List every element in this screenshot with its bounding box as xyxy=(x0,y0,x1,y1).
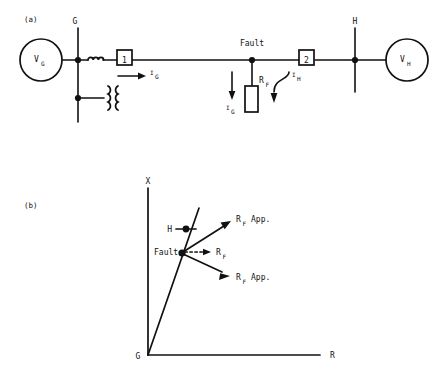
point-h-dot xyxy=(183,226,190,233)
node-dot-bus-g xyxy=(75,57,81,63)
source-h-label: V xyxy=(400,55,405,64)
arrow-ih-fault-head xyxy=(271,93,278,103)
breaker-2-label: 2 xyxy=(304,56,309,65)
current-ig-line-subscript: G xyxy=(155,73,159,80)
vector-rf-app-lower-suffix: App. xyxy=(251,273,270,282)
figure-container: (a) G H V G V H 1 2 Fault R F I G I G I … xyxy=(0,0,438,378)
vector-rf-app-lower-label: R xyxy=(236,273,241,282)
current-ig-line-label: I xyxy=(150,69,154,76)
current-ig-fault-subscript: G xyxy=(231,108,235,115)
panel-b-impedance-plane: (b) X R G Fault H R F App. R F R F App. xyxy=(0,160,438,378)
vector-rf-app-lower-head xyxy=(219,273,230,280)
vector-rf-app-upper-label: R xyxy=(236,215,241,224)
origin-g-label: G xyxy=(136,352,141,361)
vector-rf-label: R xyxy=(216,248,221,257)
transformer-winding-secondary-icon xyxy=(116,86,118,110)
transformer-icon xyxy=(108,86,110,110)
source-h-subscript: H xyxy=(407,60,411,67)
fault-resistor-label: R xyxy=(259,76,264,85)
panel-b-label: (b) xyxy=(24,201,38,210)
vector-rf-subscript: F xyxy=(223,253,227,260)
point-fault-dot xyxy=(178,249,185,256)
arrow-ih-fault-shaft xyxy=(274,72,289,92)
arrow-ig-fault-head xyxy=(229,91,236,100)
node-dot-transformer-tap xyxy=(75,95,81,101)
vector-rf-app-upper-subscript: F xyxy=(243,220,247,227)
panel-a-label: (a) xyxy=(24,15,38,24)
source-g-subscript: G xyxy=(41,60,45,67)
current-ih-fault-subscript: H xyxy=(297,75,301,82)
coil-icon xyxy=(88,57,104,60)
vector-rf-head xyxy=(203,249,211,255)
axis-x-label: X xyxy=(146,177,151,186)
impedance-line-g-to-h xyxy=(148,208,199,355)
axis-r-label: R xyxy=(330,351,335,360)
fault-resistor-box xyxy=(245,86,258,112)
bus-g-label: G xyxy=(73,17,78,26)
fault-resistor-subscript: F xyxy=(266,81,270,88)
current-ih-fault-label: I xyxy=(292,71,296,78)
point-h-label: H xyxy=(167,225,172,234)
point-fault-label: Fault xyxy=(154,248,178,257)
current-ig-fault-label: I xyxy=(226,104,230,111)
bus-h-label: H xyxy=(353,17,358,26)
vector-rf-app-lower-subscript: F xyxy=(243,278,247,285)
node-dot-bus-h xyxy=(352,57,358,63)
fault-label: Fault xyxy=(240,39,264,48)
breaker-1-label: 1 xyxy=(122,56,127,65)
vector-rf-app-upper-suffix: App. xyxy=(251,215,270,224)
source-g-label: V xyxy=(34,55,39,64)
arrow-ig-line-head xyxy=(138,73,146,80)
node-dot-fault xyxy=(249,57,255,63)
panel-a-one-line-diagram: (a) G H V G V H 1 2 Fault R F I G I G I … xyxy=(0,0,438,160)
